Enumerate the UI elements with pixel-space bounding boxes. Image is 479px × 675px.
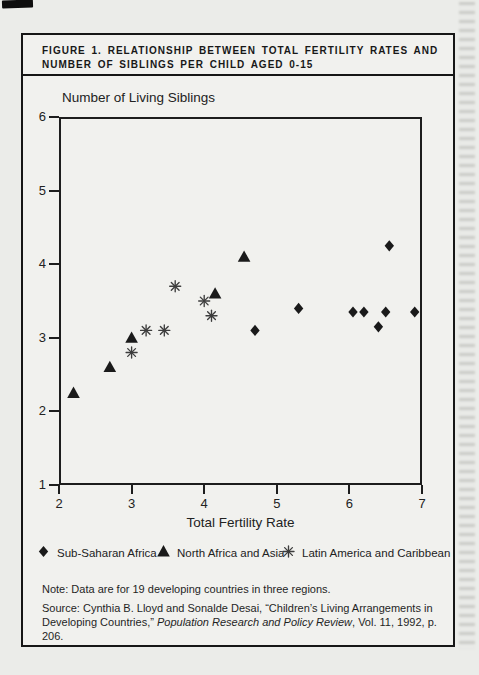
y-tick-label: 6: [24, 109, 46, 124]
legend-label: Sub-Saharan Africa: [57, 547, 157, 559]
y-axis-title: Number of Living Siblings: [62, 90, 215, 105]
data-point: [348, 306, 357, 317]
y-tick-mark: [49, 263, 59, 265]
x-tick-mark: [348, 485, 350, 494]
figure-title-line2: NUMBER OF SIBLINGS PER CHILD AGED 0-15: [42, 58, 435, 72]
data-point: [381, 306, 390, 317]
data-point: [170, 281, 181, 292]
data-point: [104, 361, 117, 372]
y-tick-label: 5: [24, 183, 46, 198]
data-point: [159, 325, 170, 336]
y-tick-label: 2: [24, 403, 46, 418]
y-tick-label: 3: [24, 330, 46, 345]
x-tick-label: 3: [123, 496, 141, 511]
x-tick-mark: [131, 485, 133, 494]
data-point: [385, 240, 394, 251]
data-point: [199, 296, 210, 307]
scanned-page: { "figure": { "title_line1": "FIGURE 1. …: [0, 0, 479, 675]
note-text: Note: Data are for 19 developing countri…: [42, 583, 331, 595]
data-point: [126, 347, 137, 358]
x-tick-mark: [276, 485, 278, 494]
figure-title: FIGURE 1. RELATIONSHIP BETWEEN TOTAL FER…: [23, 35, 453, 76]
y-tick-mark: [49, 190, 59, 192]
scan-bleed-right-margin: [459, 2, 475, 650]
data-point: [209, 287, 222, 298]
legend-label: Latin America and Caribbean: [302, 547, 450, 559]
legend-item-sub-saharan-africa: Sub-Saharan Africa: [36, 544, 157, 562]
y-tick-mark: [49, 410, 59, 412]
x-tick-label: 2: [50, 496, 68, 511]
diamond-marker-icon: [36, 544, 51, 562]
data-point: [410, 306, 419, 317]
data-point: [141, 325, 152, 336]
y-tick-mark: [49, 484, 59, 486]
x-tick-mark: [203, 485, 205, 494]
legend-item-north-africa-and-asia: North Africa and Asia: [156, 544, 284, 562]
x-tick-mark: [421, 485, 423, 494]
legend-item-latin-america-and-caribbean: Latin America and Caribbean: [281, 544, 450, 562]
data-point: [250, 325, 259, 336]
data-point: [374, 321, 383, 332]
data-point: [359, 306, 368, 317]
x-tick-mark: [58, 485, 60, 494]
chart-legend: Sub-Saharan Africa North Africa and Asia…: [0, 544, 455, 560]
x-tick-label: 5: [268, 496, 286, 511]
data-point: [294, 303, 303, 314]
x-axis-title: Total Fertility Rate: [59, 515, 422, 530]
scan-artifact-top-left: [2, 0, 33, 9]
legend-label: North Africa and Asia: [177, 547, 284, 559]
source-text: Source: Cynthia B. Lloyd and Sonalde Des…: [42, 601, 440, 643]
figure-title-line1: FIGURE 1. RELATIONSHIP BETWEEN TOTAL FER…: [42, 44, 435, 58]
x-tick-label: 7: [413, 496, 431, 511]
source-journal-title: Population Research and Policy Review: [157, 616, 352, 628]
y-tick-label: 1: [24, 477, 46, 492]
y-tick-mark: [49, 116, 59, 118]
data-point: [206, 310, 217, 321]
y-tick-label: 4: [24, 256, 46, 271]
data-point: [67, 387, 80, 398]
data-point: [125, 331, 138, 342]
y-tick-mark: [49, 337, 59, 339]
x-tick-label: 4: [195, 496, 213, 511]
triangle-marker-icon: [156, 544, 171, 562]
asterisk-marker-icon: [281, 544, 296, 562]
data-point: [238, 250, 251, 261]
scatter-markers: [59, 117, 422, 485]
plot-area: [59, 117, 422, 485]
x-tick-label: 6: [340, 496, 358, 511]
